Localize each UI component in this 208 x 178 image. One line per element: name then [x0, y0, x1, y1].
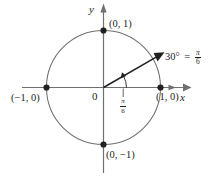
angle-arc-fraction: π 6: [120, 98, 126, 115]
point-label-top: (0, 1): [109, 19, 132, 30]
angle-equals-sign: =: [182, 51, 192, 62]
angle-radians-denominator: 6: [195, 58, 201, 66]
terminal-ray-line: [104, 57, 158, 88]
angle-ray-label: 30° = π 6: [165, 49, 201, 67]
unit-circle-canvas: [0, 0, 208, 178]
point-dot-right: [157, 84, 163, 90]
terminal-ray: [104, 52, 165, 87]
y-axis-label: y: [89, 4, 94, 15]
x-axis-inner-arrowhead-icon: [169, 85, 177, 90]
angle-arc-denominator: 6: [120, 108, 126, 115]
y-axis-arrowhead-icon: [100, 4, 106, 13]
origin-label: 0: [92, 91, 98, 102]
angle-arc-label: π 6: [116, 98, 130, 116]
point-label-bottom: (0, −1): [106, 150, 135, 161]
angle-arc-arrowhead-icon: [121, 72, 127, 78]
x-axis-label: x: [180, 92, 185, 103]
point-label-right: (1, 0): [156, 92, 179, 103]
unit-circle-figure: y x 0 (0, 1) (1, 0) (0, −1) (−1, 0) 30° …: [0, 0, 208, 178]
angle-radians-fraction: π 6: [195, 49, 201, 67]
angle-radians-numerator: π: [195, 49, 201, 57]
point-dot-top: [100, 27, 106, 33]
point-label-left: (−1, 0): [11, 93, 40, 104]
point-dot-left: [43, 84, 49, 90]
point-dot-bottom: [100, 141, 106, 147]
angle-arc-path: [123, 76, 126, 88]
angle-arc: [121, 72, 127, 97]
angle-degrees-text: 30°: [165, 51, 180, 62]
angle-arc-numerator: π: [120, 98, 126, 105]
